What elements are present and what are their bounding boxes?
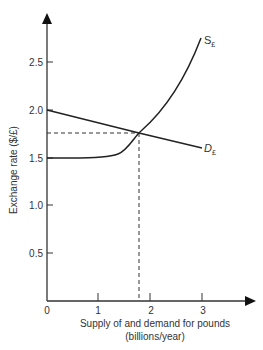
supply-curve-label: S£ (204, 34, 215, 48)
y-tick-label: 2.5 (29, 57, 43, 68)
x-tick-label: 3 (200, 305, 206, 316)
y-tick-label: 1.0 (29, 200, 43, 211)
y-axis-arrow-icon (42, 13, 52, 24)
x-ticks (98, 293, 202, 301)
y-tick-label: 1.5 (29, 153, 43, 164)
supply-curve (47, 38, 201, 158)
y-tick-label: 2.0 (29, 105, 43, 116)
supply-demand-chart: 0.5 1.0 1.5 2.0 2.5 0 1 2 3 S£ D£ Exch (0, 0, 263, 350)
y-tick-labels: 0.5 1.0 1.5 2.0 2.5 (29, 57, 43, 259)
chart-canvas: 0.5 1.0 1.5 2.0 2.5 0 1 2 3 S£ D£ Exch (0, 0, 263, 350)
x-axis-arrow-icon (245, 296, 256, 306)
demand-curve-label: D£ (204, 142, 216, 156)
x-tick-label: 2 (148, 305, 154, 316)
x-tick-label: 1 (95, 305, 101, 316)
y-tick-label: 0.5 (29, 248, 43, 259)
x-tick-labels: 0 1 2 3 (44, 305, 206, 316)
x-axis-title: Supply of and demand for pounds (80, 318, 230, 329)
x-tick-label: 0 (44, 305, 50, 316)
demand-curve (47, 110, 202, 148)
x-axis-title-units: (billions/year) (125, 331, 184, 342)
y-axis-title: Exchange rate ($/£) (8, 126, 19, 214)
